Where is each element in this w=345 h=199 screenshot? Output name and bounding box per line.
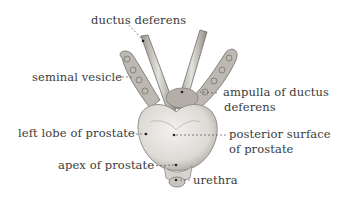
label-urethra: urethra [193, 174, 238, 187]
label-apex: apex of prostate [58, 159, 154, 172]
anatomy-illustration [0, 0, 345, 199]
label-ampulla-line1: ampulla of ductus [223, 86, 329, 99]
label-ductus-deferens: ductus deferens [91, 14, 186, 27]
label-ampulla-line2: deferens [224, 101, 276, 114]
label-left-lobe: left lobe of prostate [18, 127, 135, 140]
urethra [169, 177, 185, 187]
label-seminal-vesicle: seminal vesicle [32, 71, 122, 84]
label-posterior-line2: of prostate [229, 143, 294, 156]
label-posterior-line1: posterior surface [229, 128, 331, 141]
